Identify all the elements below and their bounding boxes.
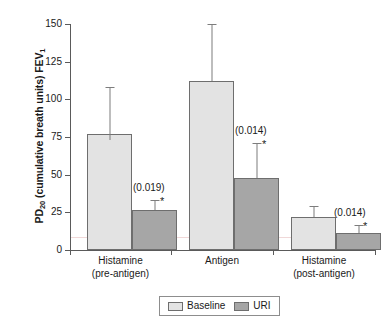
errorbar-stem	[358, 225, 359, 233]
significance-star-histamine-pre: *	[160, 196, 164, 207]
bar-uri-histamine-post	[336, 233, 381, 250]
chart-figure: PD20 (cumulative breath units) FEV1 150 …	[0, 0, 388, 328]
y-tick-label-75: 75	[22, 132, 62, 142]
x-axis-line	[70, 250, 376, 251]
significance-star-antigen: *	[262, 139, 266, 150]
errorbar-cap	[105, 87, 114, 88]
errorbar-stem	[154, 200, 155, 210]
errorbar-uri-antigen	[234, 143, 279, 178]
legend-label-uri: URI	[253, 301, 270, 311]
y-tick-label-100: 100	[22, 94, 62, 104]
errorbar-baseline-histamine-post	[291, 206, 336, 217]
errorbar-uri-histamine-pre	[132, 200, 177, 210]
legend-swatch-uri	[234, 302, 249, 311]
legend-swatch-baseline	[168, 302, 183, 311]
errorbar-cap	[309, 206, 318, 207]
errorbar-baseline-histamine-pre	[87, 87, 132, 140]
legend-item-uri[interactable]: URI	[234, 301, 270, 311]
errorbar-stem	[109, 87, 110, 140]
pvalue-annotation-antigen: (0.014)	[235, 125, 267, 136]
errorbar-baseline-antigen	[189, 24, 234, 81]
y-tick-100	[65, 99, 70, 100]
errorbar-cap	[354, 225, 363, 226]
y-tick-150	[65, 24, 70, 25]
errorbar-cap	[252, 143, 261, 144]
x-category-label-antigen: Antigen	[171, 255, 273, 268]
x-tick-3	[375, 250, 376, 255]
pvalue-annotation-histamine-post: (0.014)	[334, 207, 366, 218]
legend-label-baseline: Baseline	[187, 301, 225, 311]
errorbar-stem	[313, 206, 314, 217]
x-category-line1: Histamine	[302, 255, 346, 266]
x-category-line1: Antigen	[205, 255, 239, 266]
errorbar-stem	[256, 143, 257, 178]
y-axis-line	[70, 24, 71, 251]
y-tick-label-50: 50	[22, 170, 62, 180]
errorbar-cap	[207, 24, 216, 25]
y-tick-125	[65, 62, 70, 63]
x-category-label-histamine-post: Histamine (post-antigen)	[273, 255, 375, 280]
significance-star-histamine-post: *	[363, 221, 367, 232]
bar-baseline-antigen	[189, 81, 234, 250]
y-tick-label-150: 150	[22, 19, 62, 29]
x-category-line2: (post-antigen)	[273, 268, 375, 281]
plot-area: 150 125 100 75 50 25 0 (0.019) *	[70, 24, 375, 250]
bar-baseline-histamine-post	[291, 217, 336, 250]
chart-legend: Baseline URI	[159, 296, 280, 316]
y-tick-label-125: 125	[22, 57, 62, 67]
errorbar-cap	[150, 200, 159, 201]
y-tick-label-25: 25	[22, 207, 62, 217]
errorbar-stem	[211, 24, 212, 81]
pvalue-annotation-histamine-pre: (0.019)	[133, 182, 165, 193]
x-category-line1: Histamine	[98, 255, 142, 266]
legend-item-baseline[interactable]: Baseline	[168, 301, 225, 311]
bar-uri-histamine-pre	[132, 210, 177, 250]
x-category-line2: (pre-antigen)	[70, 268, 171, 281]
y-tick-75	[65, 137, 70, 138]
errorbar-uri-histamine-post	[336, 225, 381, 233]
y-tick-50	[65, 175, 70, 176]
bar-uri-antigen	[234, 178, 279, 250]
bar-baseline-histamine-pre	[87, 134, 132, 250]
y-axis-title-sub-1: 1	[38, 49, 47, 53]
y-tick-25	[65, 212, 70, 213]
y-tick-label-0: 0	[22, 245, 62, 255]
x-category-label-histamine-pre: Histamine (pre-antigen)	[70, 255, 171, 280]
